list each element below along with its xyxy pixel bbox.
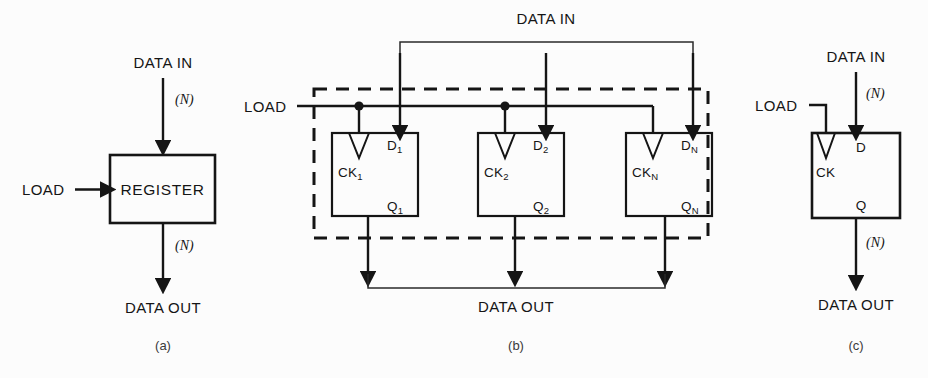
panel-b-ff1-d-label: D1 (387, 138, 402, 155)
panel-b-ffn-d-label: DN (681, 138, 698, 155)
panel-b-data-out-label: DATA OUT (478, 298, 554, 315)
panel-b-load-junction-1 (354, 101, 363, 110)
panel-a-data-in-label: DATA IN (134, 54, 193, 71)
panel-b-flipflop-1: CK1 D1 Q1 (332, 133, 418, 216)
panel-b-data-out-bus (368, 274, 665, 288)
panel-c-data-out-width: (N) (866, 235, 885, 251)
panel-a-data-in-width: (N) (175, 92, 194, 108)
panel-b-flipflop-2: CK2 D2 Q2 (478, 133, 564, 216)
panel-a-data-out-label: DATA OUT (125, 299, 201, 316)
panel-c-load-wire (809, 105, 826, 133)
panel-c-caption: (c) (848, 338, 863, 353)
panel-c: DATA IN (N) LOAD CK D Q (N) DATA OUT (c) (755, 48, 900, 353)
panel-b-ff2-clock-label: CK2 (484, 165, 509, 182)
panel-a-load-label: LOAD (22, 181, 64, 198)
panel-b-load-junction-2 (500, 101, 509, 110)
figure-canvas: DATA IN (N) REGISTER LOAD (N) DATA OUT (… (0, 0, 928, 378)
panel-b-ffn-q-label: QN (681, 199, 699, 216)
panel-c-q-label: Q (856, 198, 867, 213)
panel-b-ffn-clock-label: CKN (632, 165, 658, 182)
panel-a-register-label: REGISTER (120, 181, 204, 198)
panel-b-load-label: LOAD (244, 98, 286, 115)
panel-a-caption: (a) (155, 338, 171, 353)
panel-c-data-in-width: (N) (866, 86, 885, 102)
panel-b-data-in-label: DATA IN (517, 10, 576, 27)
panel-c-clock-label: CK (816, 165, 835, 180)
panel-b-flipflop-n: CKN DN QN (626, 133, 712, 216)
panel-b-ffn-clock-notch-icon (643, 133, 663, 158)
panel-b-ff1-q-label: Q1 (387, 199, 403, 216)
panel-b-ff2-clock-notch-icon (495, 133, 515, 158)
panel-c-data-in-label: DATA IN (827, 48, 886, 65)
panel-b-ff1-clock-label: CK1 (338, 165, 363, 182)
panel-b-caption: (b) (508, 338, 524, 353)
panel-c-data-out-label: DATA OUT (818, 296, 894, 313)
panel-c-d-label: D (856, 140, 866, 155)
panel-a-data-out-width: (N) (175, 238, 194, 254)
panel-c-load-label: LOAD (755, 97, 797, 114)
panel-b-ff1-clock-notch-icon (349, 133, 369, 158)
panel-a: DATA IN (N) REGISTER LOAD (N) DATA OUT (… (22, 54, 215, 353)
panel-b-ff2-d-label: D2 (533, 138, 548, 155)
register-figure: DATA IN (N) REGISTER LOAD (N) DATA OUT (… (0, 0, 928, 378)
panel-b-ff2-q-label: Q2 (533, 199, 549, 216)
panel-c-clock-notch-icon (817, 133, 835, 158)
panel-b: DATA IN LOAD CK1 D1 Q1 CK2 (244, 10, 712, 353)
